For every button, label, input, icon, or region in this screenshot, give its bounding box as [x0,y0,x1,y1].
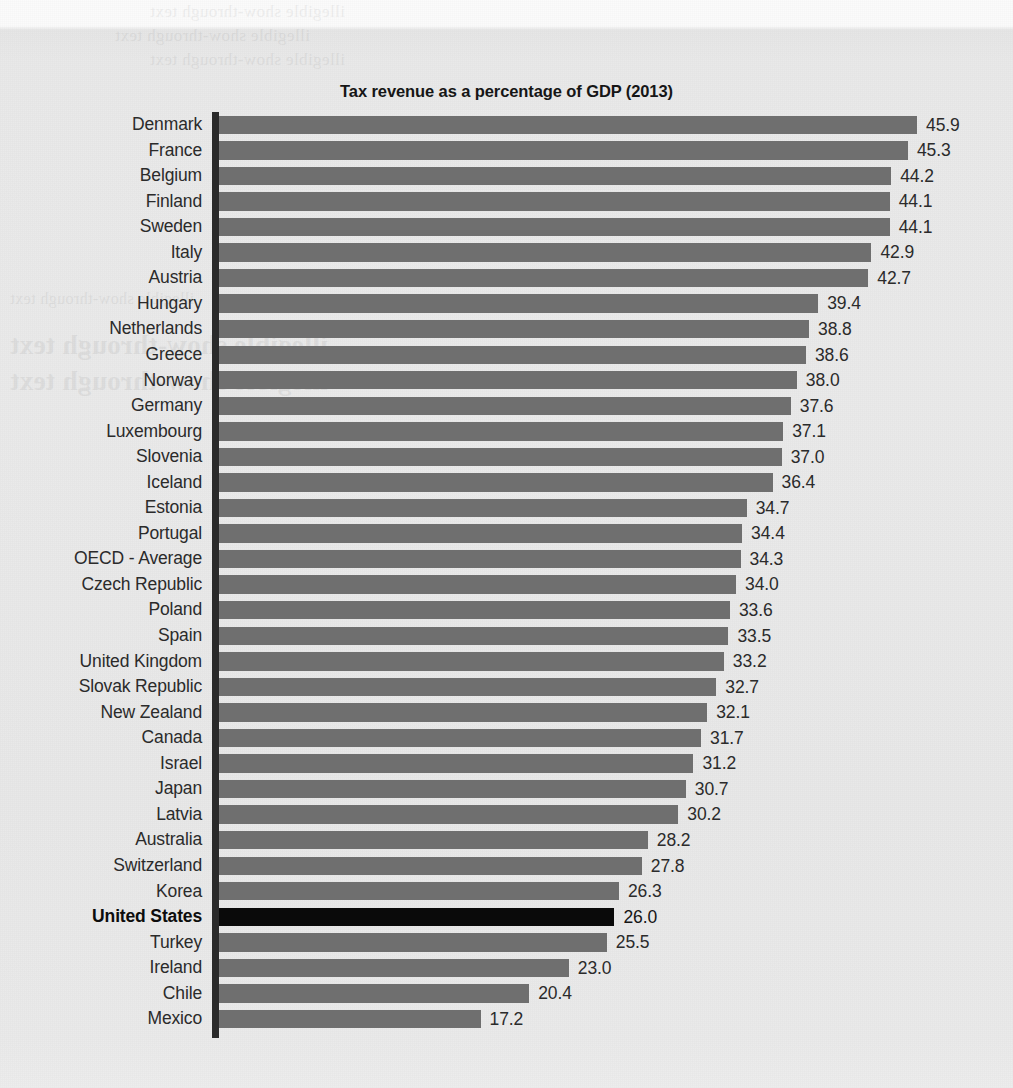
bar: 44.1 [219,192,890,210]
category-label: Finland [0,189,202,215]
category-label: Luxembourg [0,419,202,445]
bar-value-label: 23.0 [578,959,612,977]
bar-container: 26.3 [219,882,619,900]
bar: 34.0 [219,575,736,593]
bar-row: United Kingdom33.2 [0,649,1013,675]
bar-container: 20.4 [219,984,529,1002]
bar-container: 44.1 [219,192,890,210]
bar-value-label: 31.2 [702,754,736,772]
bar-value-label: 36.4 [782,473,816,491]
bar-row: Hungary39.4 [0,291,1013,317]
bar-container: 36.4 [219,473,773,491]
category-label: Slovak Republic [0,674,202,700]
bar: 34.7 [219,499,747,517]
bar: 31.2 [219,754,693,772]
bar-container: 37.6 [219,397,791,415]
category-label: Australia [0,827,202,853]
category-label: Belgium [0,163,202,189]
bar-value-label: 37.6 [800,397,834,415]
bar: 42.7 [219,269,868,287]
bar: 36.4 [219,473,773,491]
bar-chart: Tax revenue as a percentage of GDP (2013… [0,0,1013,1088]
category-label: Spain [0,623,202,649]
category-label: Austria [0,265,202,291]
bar: 34.3 [219,550,741,568]
bar-container: 26.0 [219,908,614,926]
bar: 44.1 [219,218,890,236]
category-label: Estonia [0,495,202,521]
chart-title: Tax revenue as a percentage of GDP (2013… [0,82,1013,101]
bar: 25.5 [219,933,607,951]
bar-row: Slovenia37.0 [0,444,1013,470]
category-label: Japan [0,776,202,802]
bar: 30.2 [219,805,678,823]
bar-row: Poland33.6 [0,597,1013,623]
bar: 34.4 [219,524,742,542]
bar-container: 33.6 [219,601,730,619]
category-label: Iceland [0,470,202,496]
bar-container: 34.3 [219,550,741,568]
category-label: Chile [0,981,202,1007]
category-label: Norway [0,368,202,394]
bar-value-label: 34.4 [751,524,785,542]
category-label: Greece [0,342,202,368]
bar-container: 28.2 [219,831,648,849]
category-label: Mexico [0,1006,202,1032]
bar: 37.1 [219,422,783,440]
bar-value-label: 34.7 [756,499,790,517]
bar-container: 44.1 [219,218,890,236]
category-label: United States [0,904,202,930]
bar-value-label: 45.3 [917,141,951,159]
bar-row: Korea26.3 [0,879,1013,905]
bar-container: 45.9 [219,116,917,134]
bar: 37.6 [219,397,791,415]
bar: 26.0 [219,908,614,926]
bar-container: 27.8 [219,857,642,875]
bar-container: 38.6 [219,346,806,364]
bar-container: 37.0 [219,448,782,466]
bar-value-label: 32.7 [725,678,759,696]
bar-value-label: 44.2 [900,167,934,185]
bar-container: 31.2 [219,754,693,772]
bar-row: New Zealand32.1 [0,700,1013,726]
bar-row: Spain33.5 [0,623,1013,649]
bar-row: Finland44.1 [0,189,1013,215]
bar-row: Belgium44.2 [0,163,1013,189]
bar-row: Switzerland27.8 [0,853,1013,879]
category-label: United Kingdom [0,649,202,675]
category-label: Switzerland [0,853,202,879]
bar-row: Greece38.6 [0,342,1013,368]
category-label: Denmark [0,112,202,138]
category-label: Israel [0,751,202,777]
bar-row: Norway38.0 [0,368,1013,394]
bar-row: Netherlands38.8 [0,316,1013,342]
category-label: Hungary [0,291,202,317]
bar: 42.9 [219,243,871,261]
bar: 32.1 [219,703,707,721]
bar-container: 37.1 [219,422,783,440]
bar-container: 33.2 [219,652,724,670]
bar-row: Canada31.7 [0,725,1013,751]
bar-row: Ireland23.0 [0,955,1013,981]
bar: 32.7 [219,678,716,696]
bar-container: 30.2 [219,805,678,823]
bar-container: 32.7 [219,678,716,696]
bar-row: Austria42.7 [0,265,1013,291]
bar-value-label: 17.2 [490,1010,524,1028]
bar-row: Portugal34.4 [0,521,1013,547]
bar: 45.3 [219,141,908,159]
bar-container: 17.2 [219,1010,481,1028]
bar-value-label: 34.0 [745,575,779,593]
bar-value-label: 44.1 [899,218,933,236]
category-label: Germany [0,393,202,419]
bar-container: 34.7 [219,499,747,517]
bar-value-label: 42.7 [877,269,911,287]
bar-row: Denmark45.9 [0,112,1013,138]
category-label: Italy [0,240,202,266]
bar-container: 38.0 [219,371,797,389]
bar: 26.3 [219,882,619,900]
bar-row: Luxembourg37.1 [0,419,1013,445]
bar-value-label: 39.4 [827,294,861,312]
bar-row: Mexico17.2 [0,1006,1013,1032]
category-label: France [0,138,202,164]
